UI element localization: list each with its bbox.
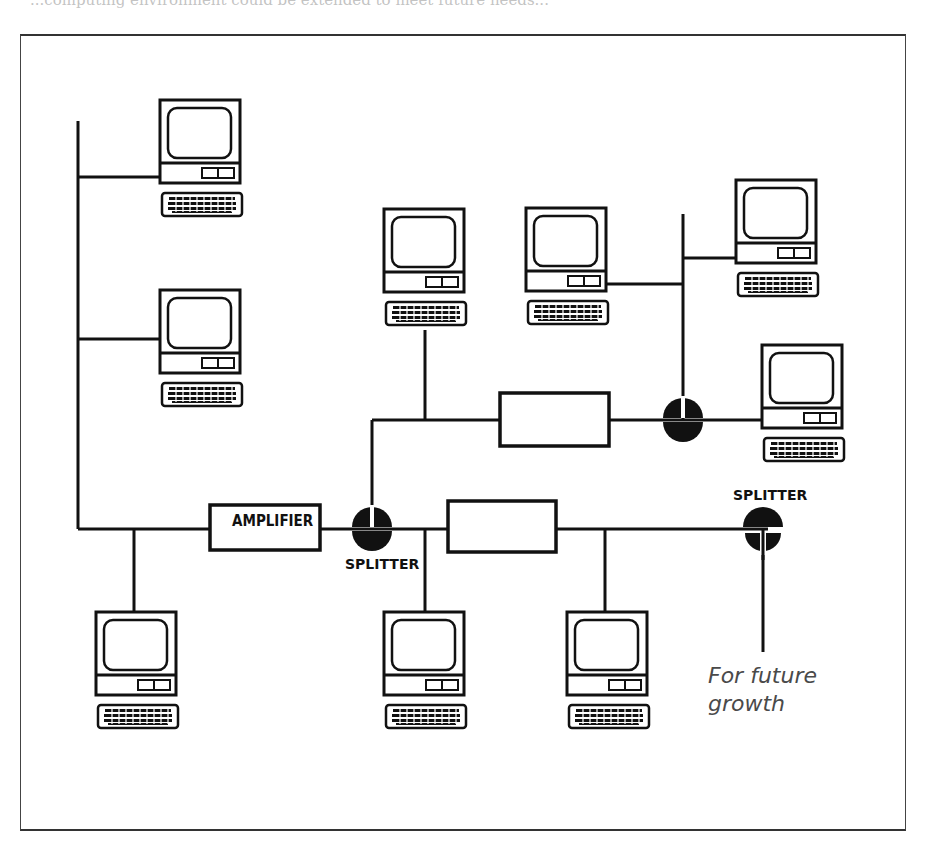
splitter-right-icon xyxy=(743,507,783,560)
future-growth-line1: For future xyxy=(708,662,817,690)
computer-icon-right-top-2 xyxy=(736,180,818,296)
computer-icon-left-1 xyxy=(160,100,242,216)
unlabeled-box-main-bus xyxy=(448,501,556,552)
future-growth-line2: growth xyxy=(708,690,817,718)
computer-icon-center-top xyxy=(384,209,466,325)
unlabeled-box-upper-bus xyxy=(500,393,609,446)
computer-icon-right-top-1 xyxy=(526,208,608,324)
computer-icon-bottom-3 xyxy=(567,612,649,728)
computer-icon-bottom-2 xyxy=(384,612,466,728)
computer-icon-bottom-1 xyxy=(96,612,178,728)
amplifier-label: AMPLIFIER xyxy=(232,512,313,530)
splitter-main-label: SPLITTER xyxy=(345,556,419,572)
future-growth-note: For future growth xyxy=(708,662,817,718)
splitter-right-label: SPLITTER xyxy=(733,487,807,503)
computer-icon-left-2 xyxy=(160,290,242,406)
network-diagram xyxy=(0,0,933,858)
computer-icon-right-mid xyxy=(762,345,844,461)
